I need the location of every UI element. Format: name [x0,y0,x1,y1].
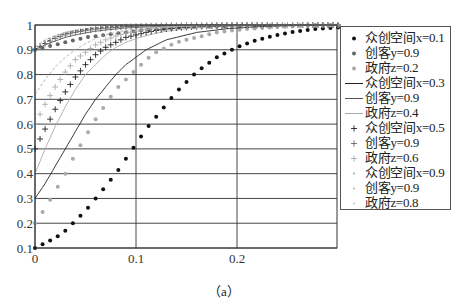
x-tick-label: 0 [32,251,39,266]
legend-label: 政府z=0.8 [365,196,418,210]
y-tick-label: 0.8 [17,67,33,82]
legend-label: 政府z=0.2 [365,61,418,75]
legend-label: 创客y=0.9 [365,91,419,105]
x-axis-tick-labels: 00.10.2 [32,251,245,266]
legend-label: 创客y=0.9 [365,46,419,60]
legend-label: 创客y=0.9 [365,136,419,150]
legend-marker-icon [345,31,363,45]
y-tick-label: 0.1 [17,241,33,256]
y-tick-label: 0.4 [17,166,34,181]
legend-marker-icon [345,196,363,210]
legend-item: 众创空间x=0.1 [341,31,452,45]
legend-item: 创客y=0.9 [341,46,452,60]
legend-item: 创客y=0.9 [341,136,452,150]
legend-marker-icon [345,106,363,120]
legend-marker-icon [345,136,363,150]
legend-item: 政府z=0.2 [341,61,452,75]
y-tick-label: 0.9 [17,42,33,57]
legend-marker-icon [345,76,363,90]
legend-marker-icon [345,151,363,165]
y-tick-label: 0.6 [17,117,34,132]
series-11 [35,25,338,94]
legend-marker-icon [345,46,363,60]
legend-label: 政府z=0.4 [365,106,418,120]
legend-label: 众创空间x=0.1 [365,31,444,45]
series-3 [35,25,338,198]
legend-item: 创客y=0.9 [341,181,452,195]
y-axis-tick-labels: 0.10.20.30.40.50.60.70.80.91 [17,18,34,256]
figure-caption: （a） [208,281,240,300]
legend-label: 创客y=0.9 [365,181,419,195]
legend-marker-icon [345,166,363,180]
legend-item: 众创空间x=0.9 [341,166,452,180]
legend-label: 众创空间x=0.9 [365,166,444,180]
legend-marker-icon [345,91,363,105]
y-tick-label: 0.7 [17,92,34,107]
legend-item: 创客y=0.9 [341,91,452,105]
series-0 [33,25,340,250]
y-tick-label: 1 [27,18,34,33]
x-tick-label: 0.1 [128,251,144,266]
y-tick-label: 0.2 [17,216,33,231]
y-tick-label: 0.3 [17,191,33,206]
x-tick-label: 0.2 [229,251,245,266]
legend-item: 政府z=0.4 [341,106,452,120]
legend-marker-icon [345,181,363,195]
data-series [32,22,341,250]
legend-item: 众创空间x=0.3 [341,76,452,90]
legend-item: 众创空间x=0.5 [341,121,452,135]
legend-label: 众创空间x=0.5 [365,121,444,135]
legend-item: 政府z=0.8 [341,196,452,210]
legend-label: 政府z=0.6 [365,151,418,165]
legend-marker-icon [345,121,363,135]
legend-label: 众创空间x=0.3 [365,76,444,90]
y-tick-label: 0.5 [17,141,33,156]
legend-marker-icon [345,61,363,75]
legend-item: 政府z=0.6 [341,151,452,165]
legend: 众创空间x=0.1 创客y=0.9 政府z=0.2 众创空间x=0.3 创客y=… [340,26,451,210]
